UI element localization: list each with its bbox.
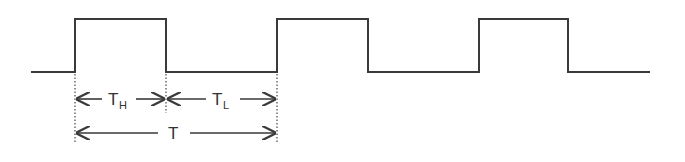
- high-time-label: T: [108, 90, 118, 109]
- high-time-dimension: T H: [77, 90, 164, 111]
- period-dimension: T: [77, 124, 275, 143]
- high-time-subscript: H: [119, 99, 127, 111]
- square-wave-diagram: T H T L T: [0, 0, 685, 162]
- square-waveform: [31, 19, 650, 72]
- low-time-dimension: T L: [168, 90, 275, 111]
- low-time-subscript: L: [223, 99, 229, 111]
- period-label: T: [168, 124, 178, 143]
- low-time-label: T: [212, 90, 222, 109]
